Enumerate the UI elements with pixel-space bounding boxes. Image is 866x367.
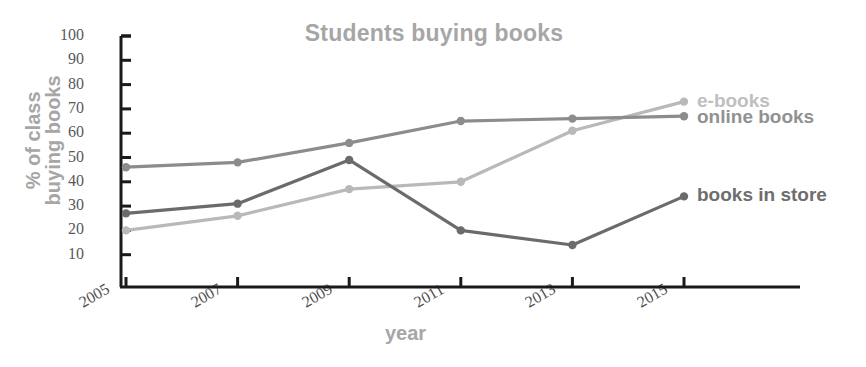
data-point-e-books [457,178,465,186]
data-point-online-books [568,114,576,122]
data-point-e-books [122,226,130,234]
chart-container: Students buying books % of class buying … [0,0,866,367]
data-point-online-books [680,112,688,120]
data-point-online-books [345,139,353,147]
data-point-online-books [233,158,241,166]
data-point-books-in-store [122,209,130,217]
data-point-e-books [233,212,241,220]
data-point-books-in-store [680,192,688,200]
data-point-online-books [457,117,465,125]
data-point-e-books [345,185,353,193]
series-line-books-in-store [126,160,684,245]
series-label-online-books: online books [697,106,814,128]
data-point-books-in-store [233,199,241,207]
data-point-books-in-store [568,241,576,249]
data-point-online-books [122,163,130,171]
series-line-e-books [126,102,684,231]
data-point-e-books [568,127,576,135]
series-label-books-in-store: books in store [697,184,827,206]
data-point-books-in-store [345,156,353,164]
data-point-books-in-store [457,226,465,234]
data-point-e-books [680,97,688,105]
